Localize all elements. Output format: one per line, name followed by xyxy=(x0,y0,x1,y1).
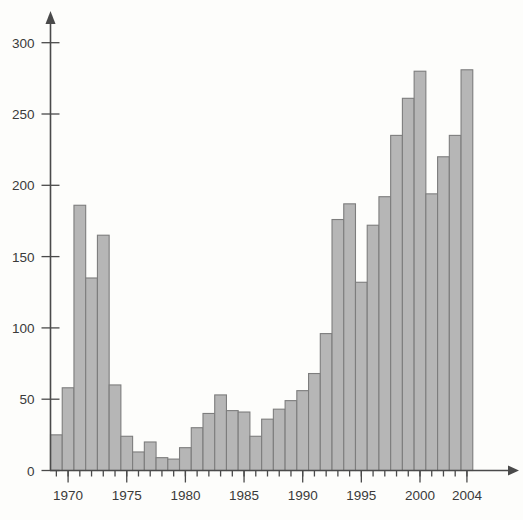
bar xyxy=(51,435,63,471)
bar xyxy=(121,436,133,470)
y-tick-label: 50 xyxy=(19,392,34,407)
bar xyxy=(168,459,180,470)
x-tick-label: 1990 xyxy=(288,488,318,503)
bar xyxy=(144,442,156,471)
bar xyxy=(109,385,121,471)
bar xyxy=(426,194,438,471)
chart-canvas: 050100150200250300 197019751980198519901… xyxy=(0,0,523,520)
bar xyxy=(215,395,227,471)
bar xyxy=(285,401,297,471)
y-tick-label: 250 xyxy=(12,107,35,122)
bar xyxy=(449,135,461,470)
bar xyxy=(97,235,109,470)
x-tick-label: 1995 xyxy=(346,488,376,503)
bar xyxy=(203,413,215,470)
y-tick-label: 200 xyxy=(12,178,35,193)
y-tick-label: 150 xyxy=(12,250,35,265)
bar xyxy=(414,71,426,470)
x-tick-label: 1970 xyxy=(53,488,83,503)
bar xyxy=(156,458,168,471)
x-tick-label: 2000 xyxy=(405,488,435,503)
bar xyxy=(367,225,379,470)
bar xyxy=(250,436,262,470)
bar-chart: 050100150200250300 197019751980198519901… xyxy=(0,0,523,520)
y-tick-label: 300 xyxy=(12,36,35,51)
bar xyxy=(262,419,274,470)
bar xyxy=(438,157,450,471)
bar xyxy=(344,204,356,471)
bar xyxy=(226,411,238,471)
bar xyxy=(309,374,321,471)
x-tick-label: 2004 xyxy=(452,488,483,503)
bar xyxy=(379,197,391,471)
x-tick-label: 1975 xyxy=(112,488,142,503)
x-tick-label: 1985 xyxy=(229,488,259,503)
bar xyxy=(402,98,414,470)
bar xyxy=(391,135,403,470)
y-tick-label: 0 xyxy=(27,464,35,479)
bar xyxy=(86,278,98,471)
bar xyxy=(320,334,332,471)
bar xyxy=(355,282,367,470)
bar xyxy=(297,391,309,471)
bar xyxy=(238,412,250,470)
bar xyxy=(191,428,203,471)
bar xyxy=(180,448,192,471)
bar xyxy=(62,388,74,471)
bar xyxy=(133,452,145,471)
bar xyxy=(74,205,86,470)
bar xyxy=(273,409,285,470)
bar xyxy=(461,70,473,471)
bar xyxy=(332,220,344,471)
y-tick-label: 100 xyxy=(12,321,35,336)
x-tick-label: 1980 xyxy=(170,488,200,503)
